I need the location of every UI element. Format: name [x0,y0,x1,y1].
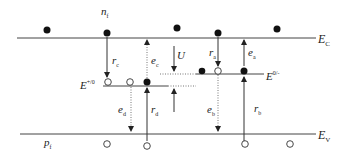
r-a-label: ra [209,46,216,60]
hole-circle [287,141,294,148]
electron-dot [104,30,111,37]
empty-state-circle [215,68,222,75]
e-b-label: eb [207,103,215,117]
r-d-label: rd [151,103,158,117]
e-c-label: ec [151,54,159,68]
donor-level-label: E+/0 [79,79,95,91]
e-d-label: ed [118,103,126,117]
e-a-label: ea [248,46,256,60]
hole-circle [144,143,151,150]
electron-dot [199,68,206,75]
free-electron-label: nf [101,5,109,19]
electron-dot [144,79,151,86]
empty-state-circle [127,79,134,86]
empty-state-circle [105,79,112,86]
free-hole-label: pf [43,136,52,150]
acceptor-level-label: E0/- [265,70,279,82]
electron-dot [44,27,51,34]
electron-dot [174,25,181,32]
electron-dot [215,30,222,37]
hole-circle [242,141,249,148]
energy-band-diagram: EC EV E+/0 E0/- nf pf rc ec U ra ea ed [0,0,342,157]
electron-dot [241,68,248,75]
r-b-label: rb [254,102,261,116]
u-label: U [177,49,186,61]
electron-dot [274,26,281,33]
r-c-label: rc [112,54,119,68]
conduction-band-label: EC [317,32,330,48]
hole-circle [104,141,111,148]
valence-band-label: EV [317,128,330,144]
